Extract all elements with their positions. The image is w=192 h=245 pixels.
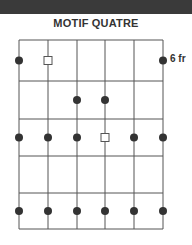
finger-dot	[159, 57, 167, 65]
finger-dot	[44, 207, 52, 215]
finger-dot	[101, 207, 109, 215]
finger-dot	[73, 96, 81, 104]
finger-dot	[15, 134, 23, 142]
finger-dot	[73, 207, 81, 215]
root-square-marker	[101, 134, 109, 142]
finger-dot	[73, 134, 81, 142]
finger-dot	[130, 134, 138, 142]
finger-dot	[159, 134, 167, 142]
root-square-marker	[44, 57, 52, 65]
finger-dot	[101, 96, 109, 104]
finger-dot	[159, 207, 167, 215]
finger-dot	[44, 134, 52, 142]
finger-dot	[15, 57, 23, 65]
fret-position-label: 6 fr	[170, 53, 186, 64]
fretboard-diagram	[0, 0, 192, 245]
finger-dot	[15, 207, 23, 215]
finger-dot	[130, 207, 138, 215]
